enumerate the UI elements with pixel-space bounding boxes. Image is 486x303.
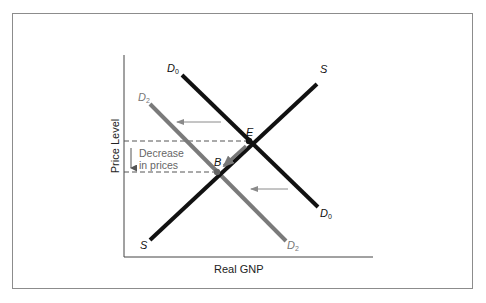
- label-d2-bottom-letter: D: [287, 239, 295, 251]
- note-line-2: in prices: [139, 159, 184, 171]
- label-d0-bottom-letter: D: [320, 207, 328, 219]
- label-d2-top-sub: 2: [146, 97, 150, 104]
- label-d0-bottom: D0: [320, 208, 332, 220]
- label-s-bottom-letter: S: [140, 239, 147, 251]
- label-s-top-letter: S: [320, 63, 327, 75]
- label-d0-top-sub: 0: [175, 68, 179, 75]
- x-axis-title: Real GNP: [214, 263, 264, 275]
- label-d2-top: D2: [138, 92, 150, 104]
- y-axis-title: Price Level: [109, 106, 121, 186]
- label-d2-bottom-sub: 2: [295, 245, 299, 252]
- label-d2-top-letter: D: [138, 91, 146, 103]
- label-d0-top: D0: [167, 63, 179, 75]
- point-e: [246, 138, 252, 144]
- point-b: [214, 169, 220, 175]
- label-point-b: B: [214, 157, 221, 168]
- label-point-e: E: [246, 127, 253, 138]
- ad-as-diagram: [0, 0, 486, 303]
- label-s-top: S: [320, 64, 327, 75]
- label-d0-top-letter: D: [167, 62, 175, 74]
- label-s-bottom: S: [140, 240, 147, 251]
- label-d0-bottom-sub: 0: [328, 213, 332, 220]
- decrease-in-prices-note: Decrease in prices: [139, 147, 184, 171]
- label-d2-bottom: D2: [287, 240, 299, 252]
- note-line-1: Decrease: [139, 147, 184, 159]
